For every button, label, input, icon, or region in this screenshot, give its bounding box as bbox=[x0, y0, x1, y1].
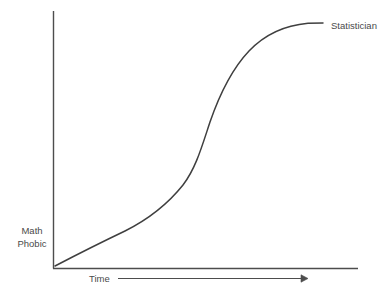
watermark-text bbox=[4, 284, 66, 293]
curve-end-label-statistician: Statistician bbox=[331, 20, 377, 33]
learning-curve-figure: Statistician Math Phobic Time bbox=[0, 0, 390, 295]
math-phobic-line-2: Phobic bbox=[12, 238, 52, 251]
time-arrow-head bbox=[301, 275, 308, 282]
x-axis-label-time: Time bbox=[89, 273, 110, 286]
curve-start-label-math-phobic: Math Phobic bbox=[12, 225, 52, 250]
math-phobic-line-1: Math bbox=[12, 225, 52, 238]
plot-area bbox=[0, 0, 390, 295]
learning-curve-path bbox=[55, 23, 323, 266]
